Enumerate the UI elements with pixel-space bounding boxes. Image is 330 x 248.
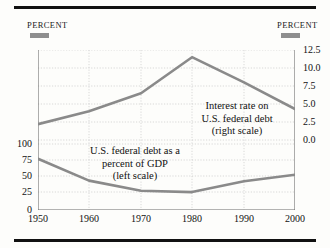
left-tick-50: 50 bbox=[6, 171, 32, 181]
annotation-interest-line3: (right scale) bbox=[185, 125, 289, 138]
right-tick-12-5: 12.5 bbox=[303, 45, 330, 55]
x-tick-1990: 1990 bbox=[220, 214, 268, 224]
left-tick-100: 100 bbox=[6, 139, 32, 149]
annotation-debt-line2: percent of GDP bbox=[74, 158, 196, 171]
annotation-federal-debt: U.S. federal debt as a percent of GDP (l… bbox=[74, 145, 196, 183]
right-tick-2-5: 2.5 bbox=[303, 117, 330, 127]
right-axis-header: Percent bbox=[277, 20, 318, 30]
x-tick-1980: 1980 bbox=[168, 214, 216, 224]
annotation-debt-line3: (left scale) bbox=[74, 170, 196, 183]
figure-container: Percent Percent 100 75 50 25 0 12.5 10.0… bbox=[0, 0, 330, 248]
right-axis-swatch bbox=[281, 33, 300, 38]
bottom-rule bbox=[14, 239, 316, 242]
x-tick-1960: 1960 bbox=[65, 214, 113, 224]
annotation-interest-rate: Interest rate on U.S. federal debt (righ… bbox=[185, 100, 289, 138]
right-tick-7-5: 7.5 bbox=[303, 81, 330, 91]
left-axis-swatch bbox=[30, 33, 49, 38]
left-tick-75: 75 bbox=[6, 155, 32, 165]
left-axis-header: Percent bbox=[27, 20, 68, 30]
top-rule bbox=[14, 6, 316, 9]
right-tick-10-0: 10.0 bbox=[303, 63, 330, 73]
right-tick-0-0: 0.0 bbox=[303, 135, 330, 145]
x-tick-2000: 2000 bbox=[271, 214, 319, 224]
right-tick-5-0: 5.0 bbox=[303, 99, 330, 109]
x-tick-1970: 1970 bbox=[117, 214, 165, 224]
left-tick-25: 25 bbox=[6, 187, 32, 197]
x-tick-1950: 1950 bbox=[14, 214, 62, 224]
annotation-interest-line1: Interest rate on bbox=[185, 100, 289, 113]
annotation-interest-line2: U.S. federal debt bbox=[185, 113, 289, 126]
annotation-debt-line1: U.S. federal debt as a bbox=[74, 145, 196, 158]
